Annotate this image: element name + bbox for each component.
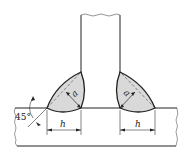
leg-label-right: h xyxy=(135,119,141,129)
weld-diagram: a a h h 45° xyxy=(0,0,189,159)
leg-dimension-left: h xyxy=(47,110,81,135)
left-weld: a xyxy=(47,72,85,112)
right-weld: a xyxy=(117,72,156,112)
base-plate xyxy=(14,108,178,146)
leg-dimension-right: h xyxy=(120,110,155,135)
angle-marker: 45° xyxy=(15,96,47,127)
leg-label-left: h xyxy=(60,119,66,129)
vertical-plate xyxy=(81,14,120,108)
angle-label: 45° xyxy=(15,112,31,122)
